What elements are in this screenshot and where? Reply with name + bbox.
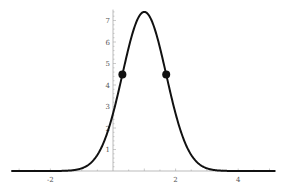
x-tick-label: 2: [173, 176, 177, 184]
marked-points: [118, 70, 170, 78]
bell-curve-chart: -2241234567: [0, 0, 284, 194]
axes: -2241234567: [13, 10, 275, 184]
inflection-point-marker: [118, 70, 126, 78]
y-tick-label: 5: [106, 60, 110, 68]
x-tick-label: -2: [47, 176, 54, 184]
y-tick-label: 4: [106, 82, 111, 90]
y-tick-label: 6: [106, 39, 111, 47]
y-tick-label: 3: [106, 103, 110, 111]
inflection-point-marker: [162, 70, 170, 78]
y-tick-label: 7: [106, 17, 110, 25]
y-tick-label: 1: [106, 146, 110, 154]
gaussian-curve: [11, 12, 275, 171]
x-tick-label: 4: [236, 176, 241, 184]
